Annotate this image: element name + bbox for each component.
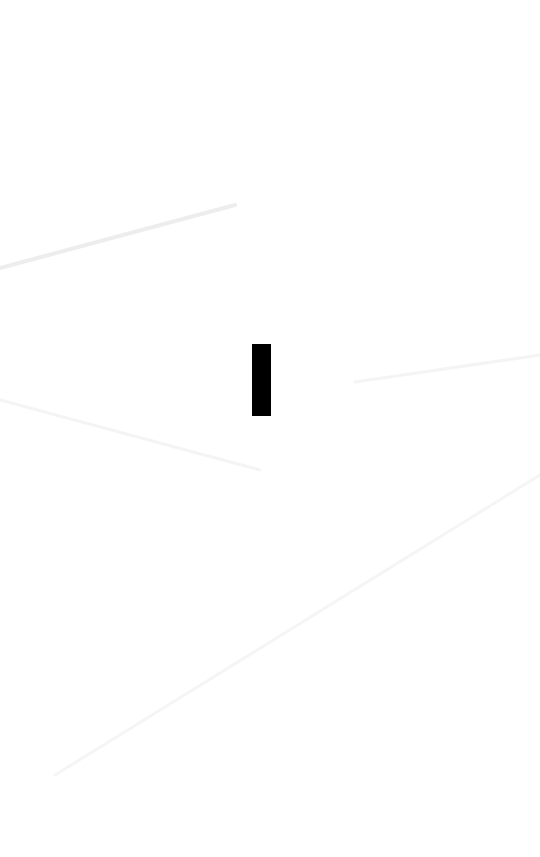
loading-bar (252, 344, 271, 416)
splash-screen (0, 0, 540, 857)
streak-4 (55, 475, 540, 775)
background-streaks (0, 0, 540, 857)
streak-2 (0, 400, 260, 470)
streak-1 (0, 205, 235, 268)
streak-3 (355, 355, 540, 382)
